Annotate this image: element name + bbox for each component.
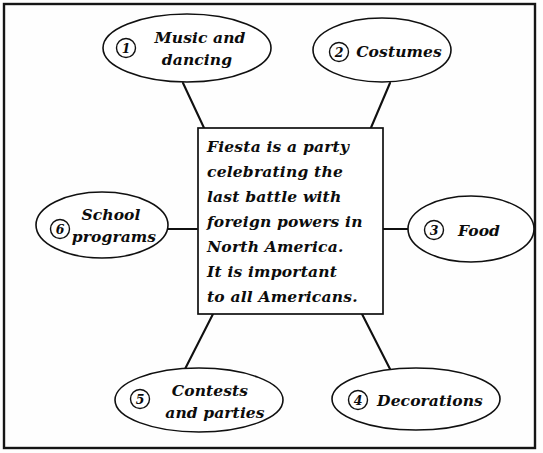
- node-1-label-line-1: Music and: [154, 28, 246, 47]
- center-topic-box[interactable]: Fiesta is a party celebrating the last b…: [198, 128, 383, 314]
- node-3-number: 3: [430, 223, 439, 238]
- node-4-number: 4: [354, 393, 363, 408]
- node-3-label-line-1: Food: [457, 221, 500, 240]
- node-food[interactable]: 3 Food: [408, 196, 534, 262]
- node-decorations[interactable]: 4 Decorations: [332, 368, 500, 430]
- node-music-and-dancing[interactable]: 1 Music and dancing: [103, 14, 271, 82]
- node-2-number: 2: [334, 45, 344, 60]
- node-6-label-line-2: programs: [72, 227, 156, 246]
- center-line-2: celebrating the: [207, 162, 343, 181]
- node-2-label-line-1: Costumes: [356, 42, 442, 61]
- connector-center-to-node-5: [185, 314, 213, 369]
- node-contests-and-parties[interactable]: 5 Contests and parties: [115, 368, 283, 432]
- node-school-programs[interactable]: 6 School programs: [36, 192, 168, 258]
- node-costumes[interactable]: 2 Costumes: [313, 18, 451, 82]
- connector-center-to-node-2: [370, 83, 390, 130]
- center-line-3: last battle with: [207, 187, 341, 206]
- node-5-number: 5: [136, 392, 145, 407]
- node-1-label-line-2: dancing: [162, 50, 232, 69]
- center-line-6: It is important: [206, 262, 338, 281]
- center-line-5: North America.: [206, 237, 344, 256]
- node-1-number: 1: [122, 41, 131, 56]
- node-5-label-line-2: and parties: [165, 403, 265, 422]
- node-6-number: 6: [56, 222, 65, 237]
- node-4-label-line-1: Decorations: [376, 391, 483, 410]
- center-line-7: to all Americans.: [207, 287, 358, 306]
- connector-center-to-node-1: [183, 83, 205, 130]
- center-line-1: Fiesta is a party: [206, 137, 350, 156]
- concept-map-drawing: Fiesta is a party celebrating the last b…: [0, 0, 543, 453]
- concept-map-canvas: Fiesta is a party celebrating the last b…: [0, 0, 543, 453]
- node-6-label-line-1: School: [81, 205, 140, 224]
- center-line-4: foreign powers in: [206, 212, 363, 231]
- connector-center-to-node-4: [362, 314, 390, 369]
- node-5-label-line-1: Contests: [172, 381, 249, 400]
